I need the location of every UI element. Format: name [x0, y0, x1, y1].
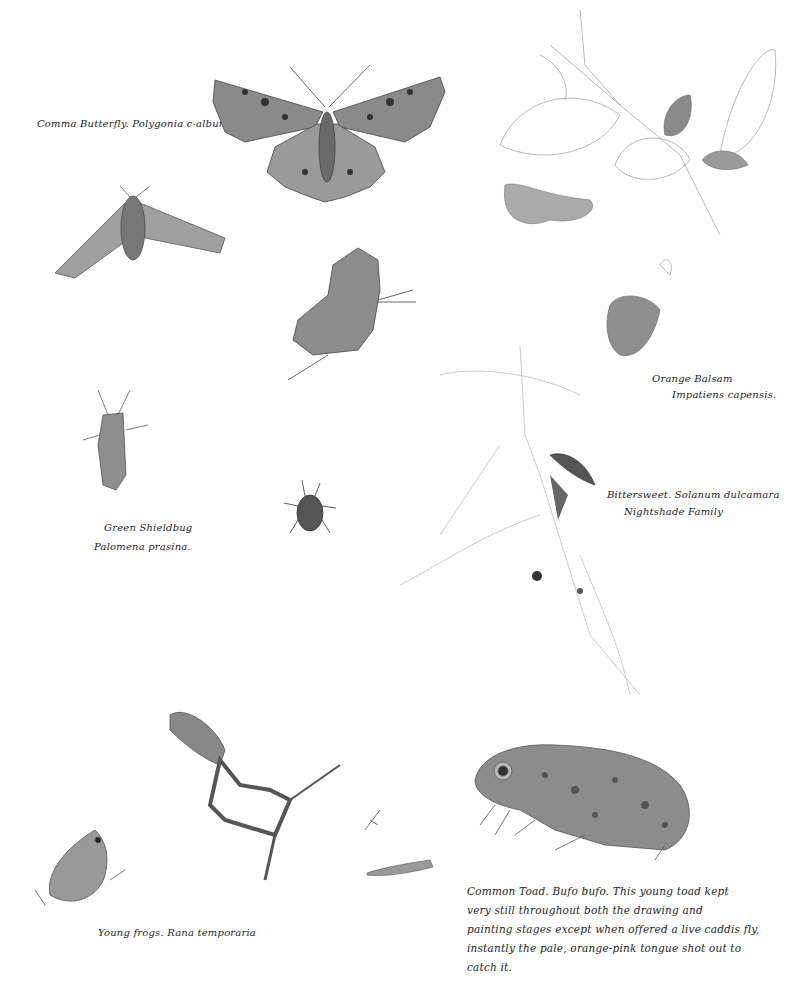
caption-common-toad-line5: catch it. — [467, 958, 797, 977]
bittersweet-plant — [380, 345, 650, 700]
caption-common-toad-line1: Common Toad. Bufo bufo. This young toad … — [467, 882, 797, 901]
caption-orange-balsam-common: Orange Balsam — [652, 373, 733, 384]
small-moth — [78, 385, 153, 495]
common-toad — [465, 735, 700, 860]
young-frog-sitting — [30, 825, 130, 915]
caption-common-toad-line4: instantly the pale, orange-pink tongue s… — [467, 939, 797, 958]
caption-young-frogs: Young frogs. Rana temporaria — [98, 927, 256, 938]
caption-orange-balsam-latin: Impatiens capensis. — [672, 389, 776, 400]
caption-common-toad: Common Toad. Bufo bufo. This young toad … — [467, 882, 797, 977]
small-insect — [360, 805, 385, 835]
young-frog-leaping — [165, 705, 345, 885]
caption-green-shieldbug-latin: Palomena prasina. — [94, 541, 191, 552]
caption-comma-butterfly: Comma Butterfly. Polygonia c-album. — [37, 118, 232, 129]
hawk-moth — [50, 183, 230, 283]
caption-common-toad-line2: very still throughout both the drawing a… — [467, 901, 797, 920]
caption-green-shieldbug-common: Green Shieldbug — [104, 522, 192, 533]
green-shieldbug — [280, 478, 340, 543]
comma-butterfly-open-wings — [205, 62, 450, 212]
caption-common-toad-line3: painting stages except when offered a li… — [467, 920, 797, 939]
ladybirds — [532, 572, 533, 573]
orange-balsam-plant — [480, 5, 780, 370]
caddis-larva — [365, 855, 435, 880]
